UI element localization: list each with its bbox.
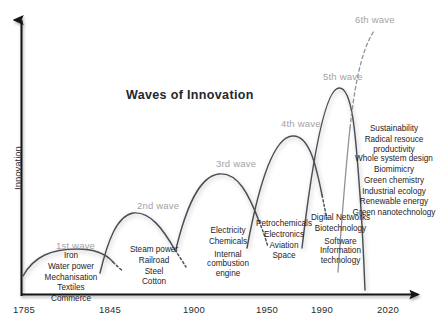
wave-3-items: Electricity Chemicals Internal combustio… <box>197 226 259 279</box>
wave-3-caption: 3rd wave <box>216 158 256 169</box>
wave-6-item: Industrial ecology <box>352 187 436 198</box>
wave-6-item: Green chemistry <box>352 176 436 187</box>
wave-2-items: Steam power Railroad Steel Cotton <box>118 245 190 288</box>
wave-2-item: Railroad <box>118 256 190 267</box>
wave-6-items: Sustainability Radical resouce productiv… <box>352 124 436 218</box>
wave-5-item: Software <box>309 237 372 247</box>
x-tick-2020: 2020 <box>377 304 399 315</box>
wave-3-item: Chemicals <box>197 237 259 248</box>
wave-6-item: Renewable energy <box>352 197 436 208</box>
wave-6-item: Sustainability <box>352 124 436 135</box>
wave-5-items: Digital Networks Biotechnology Software … <box>309 213 372 266</box>
wave-1-item: Textiles <box>22 283 120 294</box>
wave-4-item: Space <box>253 251 315 262</box>
wave-2-caption: 2nd wave <box>137 200 179 211</box>
wave-6-item: Green nanotechnology <box>352 208 436 218</box>
wave-6-item: Radical resouce productivity <box>352 135 436 154</box>
y-axis-label: Innovation <box>12 146 23 190</box>
wave-1-item: Iron <box>22 251 120 262</box>
wave-6-item: Whole system design <box>352 154 436 165</box>
wave-2-item: Steel <box>118 267 190 278</box>
wave-1-caption: 1st wave <box>56 240 95 251</box>
wave-1-item: Mechanisation <box>22 273 120 284</box>
wave-1-items: Iron Water power Mechanisation Textiles … <box>22 251 120 305</box>
wave-4-caption: 4th wave <box>281 118 321 129</box>
x-tick-1900: 1900 <box>183 304 205 315</box>
wave-3-item: Electricity <box>197 226 259 237</box>
chart-canvas: Innovation Waves of Innovation 1785 1845… <box>0 0 439 331</box>
x-tick-1950: 1950 <box>256 304 278 315</box>
wave-1-item: Water power <box>22 262 120 273</box>
wave-3-item: Internal combustion engine <box>197 250 259 279</box>
wave-1-item: Commerce <box>22 294 120 305</box>
x-tick-1785: 1785 <box>13 304 35 315</box>
wave-4-item: Aviation <box>253 241 315 252</box>
wave-5-item: Biotechnology <box>309 224 372 235</box>
x-tick-1990: 1990 <box>311 304 333 315</box>
wave-6-caption: 6th wave <box>355 14 395 25</box>
wave-2-item: Steam power <box>118 245 190 256</box>
wave-2-item: Cotton <box>118 277 190 288</box>
wave-4-item: Electronics <box>253 230 315 241</box>
chart-title: Waves of Innovation <box>126 88 254 102</box>
wave-4-item: Petrochemicals <box>253 219 315 230</box>
wave-4-items: Petrochemicals Electronics Aviation Spac… <box>253 219 315 262</box>
wave-5-caption: 5th wave <box>323 71 363 82</box>
wave-6-item: Biomimicry <box>352 165 436 176</box>
x-tick-1845: 1845 <box>99 304 121 315</box>
wave-5-item: Information technology <box>309 246 372 265</box>
